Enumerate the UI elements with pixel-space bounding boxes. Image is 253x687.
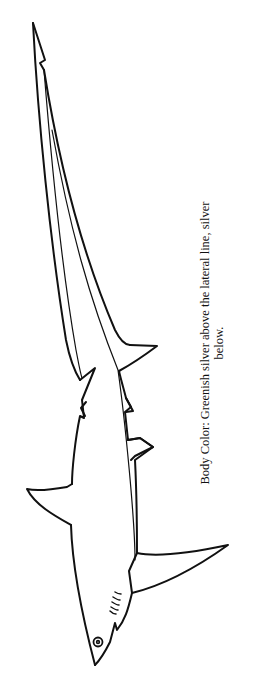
caption-line-2: below. (212, 63, 226, 623)
body-dorsal-front (71, 525, 95, 665)
gill-slit (110, 611, 116, 614)
eye (94, 638, 103, 647)
gill-slit (113, 597, 120, 600)
gill-slit (115, 592, 121, 594)
body-ventral-edge (119, 371, 153, 553)
eye-pupil (97, 641, 100, 644)
gill-slit (111, 607, 118, 610)
gill-slit (112, 602, 119, 605)
lateral-line (52, 130, 135, 560)
first-dorsal-fin (27, 484, 72, 525)
caudal-lower-fin (119, 345, 157, 371)
caption-line-1: Body Color: Greenish silver above the la… (198, 63, 212, 623)
body-dorsal-edge (72, 368, 95, 484)
caption: Body Color: Greenish silver above the la… (198, 63, 226, 623)
